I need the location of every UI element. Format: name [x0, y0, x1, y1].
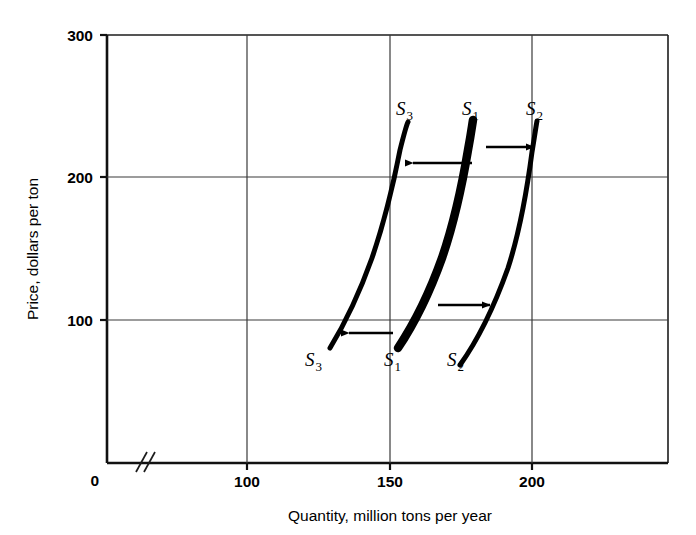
curve-label-s3-bottom-letter: S	[305, 349, 315, 370]
x-tick-label-100: 100	[234, 473, 260, 490]
curve-label-s1-top-subscript: 1	[473, 108, 480, 123]
curve-label-s1-bottom-subscript: 1	[395, 359, 402, 374]
x-axis-title: Quantity, million tons per year	[288, 507, 492, 524]
curve-label-s2-top-subscript: 2	[537, 108, 544, 123]
curve-label-s2-bottom-subscript: 2	[458, 359, 465, 374]
y-axis-title: Price, dollars per ton	[24, 178, 41, 320]
curve-label-s1-top-letter: S	[462, 98, 472, 119]
y-tick-label-200: 200	[67, 169, 93, 186]
curve-label-s2-top-letter: S	[526, 98, 536, 119]
x-tick-label-150: 150	[377, 473, 403, 490]
curve-label-s3-bottom-subscript: 3	[316, 359, 323, 374]
chart-background	[0, 0, 696, 535]
curve-label-s3-top-letter: S	[396, 98, 406, 119]
supply-curve-chart: 300 200 100 0 100 150 200 Quantity, mill…	[0, 0, 696, 535]
curve-label-s2-bottom-letter: S	[447, 349, 457, 370]
origin-label-0: 0	[90, 472, 99, 489]
curve-label-s3-top-subscript: 3	[407, 108, 414, 123]
y-tick-label-100: 100	[67, 312, 93, 329]
y-tick-label-300: 300	[67, 27, 93, 44]
x-tick-label-200: 200	[519, 473, 545, 490]
curve-label-s1-bottom-letter: S	[384, 349, 394, 370]
